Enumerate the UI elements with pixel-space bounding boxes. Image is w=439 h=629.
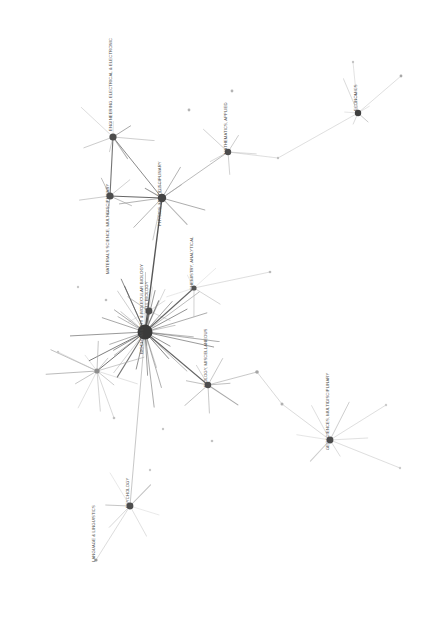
minor-node[interactable] xyxy=(105,299,108,302)
hub-spoke-edge xyxy=(46,371,97,374)
graph-edge xyxy=(58,352,97,371)
network-visualization: ENGINEERING, ELECTRICAL & ELECTRONICMATE… xyxy=(0,0,439,629)
graph-node[interactable] xyxy=(94,558,97,561)
graph-edge xyxy=(282,404,330,440)
minor-node[interactable] xyxy=(400,75,403,78)
graph-node[interactable] xyxy=(205,382,211,388)
graph-edge xyxy=(130,332,145,506)
hub-spoke-edge xyxy=(203,129,228,152)
minor-node[interactable] xyxy=(385,404,387,406)
minor-node[interactable] xyxy=(399,467,401,469)
hub-spoke-edge xyxy=(208,385,238,405)
graph-node[interactable] xyxy=(355,110,361,116)
hub-spoke-edge xyxy=(97,371,100,411)
minor-node[interactable] xyxy=(162,428,164,430)
graph-edge xyxy=(113,137,162,198)
hub-spoke-edge xyxy=(208,359,223,385)
hub-spoke-edge xyxy=(297,435,330,440)
graph-edge xyxy=(194,272,270,288)
hub-spoke-edge xyxy=(106,505,130,506)
minor-node[interactable] xyxy=(231,90,234,93)
hub-spoke-edge xyxy=(194,288,220,304)
hub-spoke-edge xyxy=(310,440,330,461)
hub-spoke-edge xyxy=(312,406,330,440)
hub-spoke-edge xyxy=(81,107,113,137)
hub-spokes-layer xyxy=(46,79,369,537)
graph-edge xyxy=(330,440,400,468)
minor-node[interactable] xyxy=(281,403,284,406)
hub-spoke-edge xyxy=(162,198,187,224)
hub-spoke-edge xyxy=(128,297,149,311)
graph-node[interactable] xyxy=(146,308,153,315)
graph-edge xyxy=(358,76,401,113)
graph-edge xyxy=(228,152,278,158)
hub-spoke-edge xyxy=(110,180,130,196)
hub-spoke-edge xyxy=(84,137,113,148)
hub-spoke-edge xyxy=(130,506,147,536)
hub-spoke-edge xyxy=(145,313,207,332)
graph-edge xyxy=(278,113,358,158)
hub-spoke-edge xyxy=(208,385,209,413)
minor-node[interactable] xyxy=(113,417,116,420)
hub-spoke-edge xyxy=(130,485,151,506)
minor-node[interactable] xyxy=(77,286,79,288)
hub-spoke-edge xyxy=(330,402,349,440)
graph-edge xyxy=(97,332,145,371)
minor-nodes-layer xyxy=(57,61,403,471)
graph-edge xyxy=(257,372,282,404)
hub-spoke-edge xyxy=(97,357,144,371)
hub-spoke-edge xyxy=(134,198,162,227)
graph-node[interactable] xyxy=(138,325,153,340)
graph-edge xyxy=(162,152,228,198)
minor-node[interactable] xyxy=(94,368,99,373)
network-graph-svg xyxy=(0,0,439,629)
graph-edge xyxy=(110,137,113,196)
hub-spoke-edge xyxy=(113,137,154,141)
graph-node[interactable] xyxy=(106,192,113,199)
graph-node[interactable] xyxy=(109,133,116,140)
minor-node[interactable] xyxy=(255,370,259,374)
hub-spoke-edge xyxy=(162,167,180,198)
hub-spoke-edge xyxy=(97,371,137,384)
graph-edge xyxy=(208,372,257,385)
minor-node[interactable] xyxy=(149,469,151,471)
hub-spoke-edge xyxy=(330,438,368,440)
minor-node[interactable] xyxy=(188,109,191,112)
graph-edge xyxy=(145,288,194,332)
minor-node[interactable] xyxy=(211,440,214,443)
hub-spoke-edge xyxy=(343,79,358,113)
graph-node[interactable] xyxy=(158,194,166,202)
hub-spoke-edge xyxy=(228,152,230,174)
hub-spoke-edge xyxy=(162,198,205,210)
hub-spoke-edge xyxy=(109,506,130,527)
graph-node[interactable] xyxy=(327,437,334,444)
minor-node[interactable] xyxy=(277,157,279,159)
minor-node[interactable] xyxy=(269,271,272,274)
hub-spoke-edge xyxy=(185,385,208,406)
graph-node[interactable] xyxy=(225,149,231,155)
hub-spoke-edge xyxy=(110,473,130,506)
minor-node[interactable] xyxy=(57,351,59,353)
hub-spoke-edge xyxy=(196,365,208,385)
graph-edge xyxy=(353,62,358,113)
graph-edge xyxy=(145,332,208,385)
graph-edge xyxy=(96,506,130,560)
graph-node[interactable] xyxy=(127,503,134,510)
hub-spoke-edge xyxy=(70,332,145,336)
graph-node[interactable] xyxy=(191,285,196,290)
graph-edge xyxy=(110,196,162,198)
hub-spoke-edge xyxy=(80,196,110,200)
minor-node[interactable] xyxy=(352,61,354,63)
hub-spoke-edge xyxy=(194,268,216,288)
